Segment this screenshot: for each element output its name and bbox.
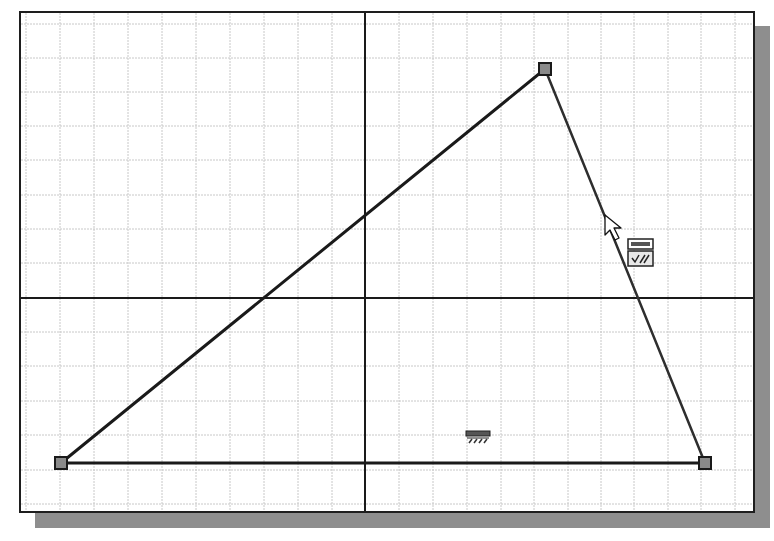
horizontal-constraint-icon[interactable]	[466, 431, 490, 443]
sketch-line-right-edge[interactable]	[545, 69, 705, 463]
sketch-lines	[61, 69, 705, 463]
sketch-point-left[interactable]	[55, 457, 67, 469]
sketch-points	[55, 63, 711, 469]
sketch-line-hypotenuse[interactable]	[61, 69, 545, 463]
sketch-point-top[interactable]	[539, 63, 551, 75]
sketch-point-right[interactable]	[699, 457, 711, 469]
arrow-cursor-icon	[605, 215, 621, 240]
constraint-glyph-stack-icon[interactable]	[628, 239, 653, 266]
sketch-canvas[interactable]	[19, 11, 755, 513]
